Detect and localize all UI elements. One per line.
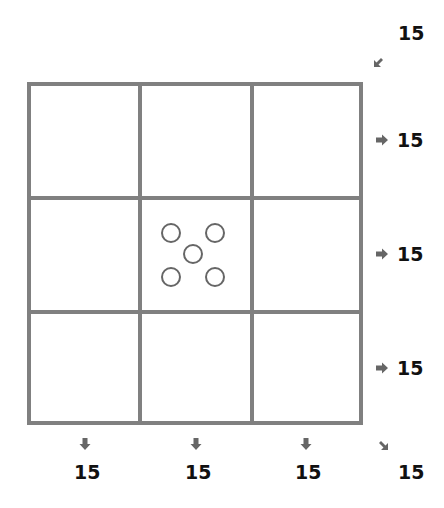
pip-icon (205, 267, 225, 287)
pip-icon (161, 267, 181, 287)
main-diagonal-sum: 15 (398, 461, 424, 483)
col-1-sum: 15 (74, 461, 100, 483)
arrow-right-icon (375, 247, 389, 261)
arrow-down-right-icon (376, 438, 390, 452)
row-3-sum: 15 (397, 357, 423, 379)
pip-icon (183, 244, 203, 264)
pip-icon (161, 223, 181, 243)
col-2-sum: 15 (185, 461, 211, 483)
arrow-down-icon (299, 437, 313, 451)
cell-r2-c2-five[interactable] (142, 200, 250, 310)
row-1-sum: 15 (397, 129, 423, 151)
anti-diagonal-sum: 15 (398, 22, 424, 44)
cell-r3-c3[interactable] (254, 314, 359, 421)
cell-r1-c1[interactable] (31, 86, 138, 196)
col-3-sum: 15 (295, 461, 321, 483)
magic-square-grid (27, 82, 363, 425)
cell-r1-c2[interactable] (142, 86, 250, 196)
cell-r2-c3[interactable] (254, 200, 359, 310)
cell-r3-c1[interactable] (31, 314, 138, 421)
arrow-down-left-icon (372, 55, 386, 69)
arrow-down-icon (189, 437, 203, 451)
cell-r1-c3[interactable] (254, 86, 359, 196)
pip-icon (205, 223, 225, 243)
arrow-down-icon (78, 437, 92, 451)
arrow-right-icon (375, 361, 389, 375)
arrow-right-icon (375, 133, 389, 147)
cell-r3-c2[interactable] (142, 314, 250, 421)
cell-r2-c1[interactable] (31, 200, 138, 310)
row-2-sum: 15 (397, 243, 423, 265)
